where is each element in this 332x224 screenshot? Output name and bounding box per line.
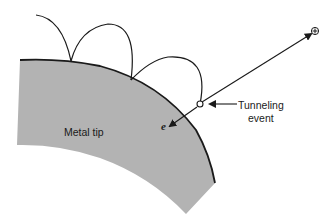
positive-charge-icon (311, 27, 318, 34)
diagram-canvas: Metal tip Tunneling event e (0, 0, 332, 224)
ion-path-line (202, 34, 311, 102)
electron-label: e (161, 120, 166, 132)
metal-tip-label: Metal tip (64, 126, 104, 138)
tunneling-event-label: Tunneling event (238, 99, 284, 125)
tunneling-label-line2: event (238, 112, 284, 125)
tunneling-label-line1: Tunneling (238, 99, 284, 112)
metal-tip-shape (17, 60, 215, 214)
trajectory-loop-1 (36, 15, 71, 61)
tunneling-point-icon (197, 101, 203, 107)
